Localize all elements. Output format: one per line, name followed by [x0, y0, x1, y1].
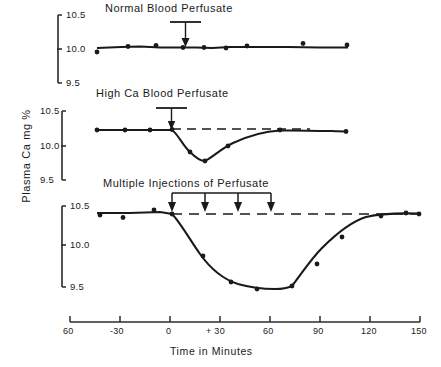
- panel-3-arrow-2: [201, 193, 209, 212]
- panel-title-multiple-injections-of-perfusate: Multiple Injections of Perfusate: [103, 177, 269, 189]
- panel-1-ytick-10-0: 10.0: [66, 43, 86, 54]
- x-axis-title: Time in Minutes: [170, 345, 253, 357]
- panel-3-ytick-10-5: 10.5: [70, 200, 90, 211]
- panel-2-injection-arrow: [156, 108, 187, 130]
- panel-3-arrow-4: [267, 193, 275, 212]
- figure-root: Plasma Ca mg % Normal Blood Perfusate Hi…: [0, 0, 441, 367]
- panel-1-injection-arrow: [170, 22, 201, 47]
- xtick-label-plus-30: + 30: [206, 326, 225, 336]
- xtick-label-0: 0: [166, 326, 171, 336]
- panel-3-series: [97, 208, 421, 292]
- xtick-label-60: 60: [263, 326, 274, 336]
- panel-1-ytick-10-5: 10.5: [66, 9, 86, 20]
- xtick-label-150: 150: [411, 326, 427, 336]
- xtick-label-120: 120: [361, 326, 377, 336]
- y-axis-title: Plasma Ca mg %: [20, 86, 32, 226]
- panel-3-y-axis: 10.5 10.0 9.5: [61, 200, 90, 292]
- panel-2-series: [95, 127, 349, 163]
- xtick-label-90: 90: [313, 326, 324, 336]
- xtick-label-minus-30: -30: [110, 326, 124, 336]
- panel-2-ytick-9-5: 9.5: [40, 174, 54, 185]
- panel-1-ytick-9-5: 9.5: [66, 77, 80, 88]
- panel-1-series: [95, 41, 350, 54]
- panel-2-ytick-10-0: 10.0: [40, 140, 60, 151]
- panel-2-ytick-10-5: 10.5: [40, 105, 60, 116]
- panel-3-ytick-9-5: 9.5: [70, 281, 84, 292]
- xtick-label-minus-60: 60: [63, 326, 74, 336]
- panel-3-arrow-1: [168, 193, 176, 212]
- x-axis: 60 -30 0 + 30 60 90 120 150: [63, 316, 427, 336]
- panel-title-normal-blood-perfusate: Normal Blood Perfusate: [105, 2, 233, 14]
- panel-title-high-ca-blood-perfusate: High Ca Blood Perfusate: [96, 87, 229, 99]
- panel-3-arrow-3: [234, 193, 242, 212]
- panel-3-injection-arrows: [168, 193, 275, 212]
- panel-1-y-axis: 10.5 10.0 9.5: [57, 9, 86, 88]
- panel-3-ytick-10-0: 10.0: [70, 239, 90, 250]
- panel-2-y-axis: 10.5 10.0 9.5: [40, 105, 66, 185]
